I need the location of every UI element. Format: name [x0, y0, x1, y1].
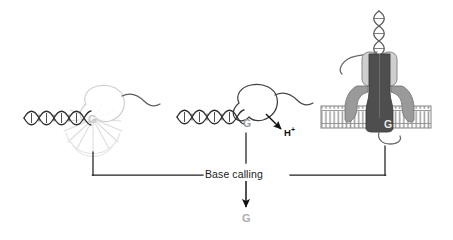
proton-symbol: H [284, 127, 291, 138]
proton-charge: + [291, 126, 295, 133]
polymerase-blob [80, 85, 124, 121]
called-base-output: G [242, 212, 251, 224]
translocated-strand [379, 132, 401, 144]
figure-canvas: Base calling H+ G G G G [0, 0, 453, 240]
base-calling-label: Base calling [205, 168, 263, 180]
polymerase-blob [233, 84, 277, 120]
proton-release-arrow [266, 114, 281, 129]
proton-label: H+ [284, 126, 295, 138]
base-letter-ion: G [243, 117, 251, 129]
template-strand-exit [275, 93, 313, 105]
base-letter-nanopore: G [384, 118, 392, 130]
base-letter-fluorescence: G [88, 113, 97, 125]
dna-double-helix [374, 11, 385, 56]
template-strand-exit [122, 94, 160, 106]
nanopore-sequencing-panel [321, 11, 431, 144]
